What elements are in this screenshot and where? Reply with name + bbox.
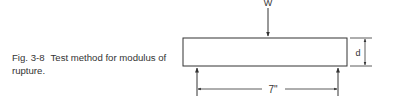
modulus-of-rupture-diagram: W 7" d <box>0 0 393 103</box>
load-arrow: W <box>264 0 273 36</box>
span-label: 7" <box>268 84 278 95</box>
depth-dimension: d <box>350 38 372 66</box>
beam-specimen <box>183 38 347 66</box>
depth-label: d <box>355 48 360 58</box>
span-dimension: 7" <box>198 84 337 95</box>
load-label: W <box>264 0 273 8</box>
